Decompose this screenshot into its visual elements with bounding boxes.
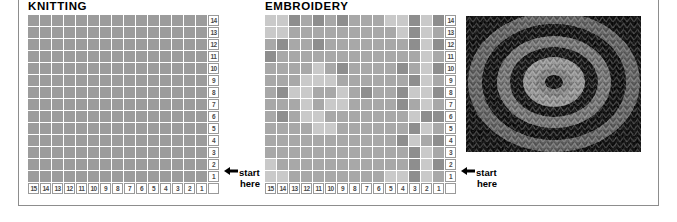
chart-cell[interactable] — [289, 27, 300, 38]
chart-cell[interactable] — [184, 51, 195, 62]
chart-cell[interactable] — [349, 51, 360, 62]
chart-cell[interactable] — [409, 99, 420, 110]
chart-cell[interactable] — [160, 63, 171, 74]
chart-cell[interactable] — [373, 51, 384, 62]
chart-cell[interactable] — [397, 159, 408, 170]
chart-cell[interactable] — [397, 63, 408, 74]
chart-cell[interactable] — [40, 171, 51, 182]
chart-cell[interactable] — [433, 123, 444, 134]
chart-cell[interactable] — [40, 75, 51, 86]
chart-cell[interactable] — [172, 75, 183, 86]
chart-cell[interactable] — [265, 159, 276, 170]
chart-cell[interactable] — [76, 51, 87, 62]
chart-cell[interactable] — [361, 135, 372, 146]
chart-cell[interactable] — [385, 39, 396, 50]
chart-cell[interactable] — [124, 39, 135, 50]
chart-cell[interactable] — [112, 123, 123, 134]
chart-cell[interactable] — [196, 87, 207, 98]
chart-cell[interactable] — [76, 171, 87, 182]
chart-cell[interactable] — [433, 99, 444, 110]
chart-cell[interactable] — [64, 75, 75, 86]
chart-cell[interactable] — [349, 99, 360, 110]
chart-cell[interactable] — [325, 171, 336, 182]
chart-cell[interactable] — [172, 159, 183, 170]
chart-cell[interactable] — [40, 123, 51, 134]
chart-cell[interactable] — [184, 27, 195, 38]
chart-cell[interactable] — [349, 63, 360, 74]
chart-cell[interactable] — [100, 51, 111, 62]
chart-cell[interactable] — [76, 87, 87, 98]
chart-cell[interactable] — [409, 87, 420, 98]
chart-cell[interactable] — [433, 63, 444, 74]
chart-cell[interactable] — [184, 39, 195, 50]
chart-cell[interactable] — [421, 123, 432, 134]
chart-cell[interactable] — [277, 159, 288, 170]
chart-cell[interactable] — [100, 39, 111, 50]
chart-cell[interactable] — [409, 63, 420, 74]
chart-cell[interactable] — [373, 147, 384, 158]
chart-cell[interactable] — [301, 87, 312, 98]
chart-cell[interactable] — [373, 171, 384, 182]
chart-cell[interactable] — [196, 147, 207, 158]
chart-cell[interactable] — [64, 51, 75, 62]
chart-cell[interactable] — [409, 123, 420, 134]
chart-cell[interactable] — [52, 27, 63, 38]
chart-cell[interactable] — [88, 99, 99, 110]
chart-cell[interactable] — [289, 159, 300, 170]
chart-cell[interactable] — [385, 147, 396, 158]
chart-cell[interactable] — [361, 99, 372, 110]
chart-cell[interactable] — [88, 159, 99, 170]
chart-cell[interactable] — [373, 159, 384, 170]
chart-cell[interactable] — [397, 15, 408, 26]
chart-cell[interactable] — [28, 111, 39, 122]
chart-cell[interactable] — [196, 27, 207, 38]
chart-cell[interactable] — [136, 99, 147, 110]
chart-cell[interactable] — [148, 135, 159, 146]
chart-cell[interactable] — [313, 63, 324, 74]
chart-cell[interactable] — [160, 15, 171, 26]
chart-cell[interactable] — [265, 15, 276, 26]
chart-cell[interactable] — [397, 39, 408, 50]
chart-cell[interactable] — [409, 159, 420, 170]
chart-cell[interactable] — [112, 63, 123, 74]
chart-cell[interactable] — [40, 27, 51, 38]
chart-cell[interactable] — [409, 111, 420, 122]
chart-cell[interactable] — [433, 171, 444, 182]
chart-cell[interactable] — [64, 111, 75, 122]
chart-cell[interactable] — [433, 39, 444, 50]
chart-cell[interactable] — [124, 135, 135, 146]
chart-cell[interactable] — [313, 51, 324, 62]
chart-cell[interactable] — [160, 147, 171, 158]
chart-cell[interactable] — [373, 123, 384, 134]
chart-cell[interactable] — [100, 15, 111, 26]
chart-cell[interactable] — [373, 27, 384, 38]
chart-cell[interactable] — [88, 39, 99, 50]
chart-cell[interactable] — [289, 111, 300, 122]
chart-cell[interactable] — [433, 75, 444, 86]
chart-cell[interactable] — [265, 39, 276, 50]
chart-cell[interactable] — [433, 135, 444, 146]
chart-cell[interactable] — [124, 171, 135, 182]
chart-cell[interactable] — [373, 15, 384, 26]
chart-cell[interactable] — [52, 171, 63, 182]
chart-cell[interactable] — [337, 171, 348, 182]
chart-cell[interactable] — [373, 87, 384, 98]
chart-cell[interactable] — [277, 111, 288, 122]
chart-cell[interactable] — [313, 87, 324, 98]
chart-cell[interactable] — [421, 75, 432, 86]
chart-cell[interactable] — [136, 39, 147, 50]
chart-cell[interactable] — [148, 111, 159, 122]
chart-cell[interactable] — [28, 171, 39, 182]
chart-cell[interactable] — [112, 87, 123, 98]
chart-cell[interactable] — [349, 111, 360, 122]
chart-cell[interactable] — [361, 123, 372, 134]
chart-cell[interactable] — [277, 75, 288, 86]
chart-cell[interactable] — [301, 51, 312, 62]
chart-cell[interactable] — [112, 99, 123, 110]
chart-cell[interactable] — [172, 27, 183, 38]
chart-cell[interactable] — [409, 15, 420, 26]
chart-cell[interactable] — [373, 63, 384, 74]
chart-cell[interactable] — [28, 87, 39, 98]
chart-cell[interactable] — [385, 15, 396, 26]
chart-cell[interactable] — [313, 99, 324, 110]
